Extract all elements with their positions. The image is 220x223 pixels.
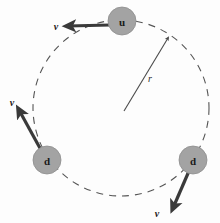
velocity-label-lower-left: v — [10, 97, 15, 108]
circular-orbit-diagram: r v v v u d d — [0, 0, 220, 223]
physics-diagram-canvas: r v v v u d d — [0, 0, 220, 223]
particle-label-top: u — [119, 16, 125, 28]
radius-line — [124, 38, 168, 111]
particle-top: u — [108, 7, 136, 35]
velocity-arrow-lower-left — [19, 110, 41, 150]
velocity-arrow-top — [68, 25, 110, 26]
particle-lower-left: d — [33, 146, 61, 174]
particle-label-lower-left: d — [44, 155, 50, 167]
velocity-label-top: v — [54, 21, 59, 32]
particle-label-right: d — [190, 155, 196, 167]
velocity-label-right: v — [155, 208, 160, 219]
radius-label: r — [148, 73, 152, 84]
particle-right: d — [179, 146, 207, 174]
